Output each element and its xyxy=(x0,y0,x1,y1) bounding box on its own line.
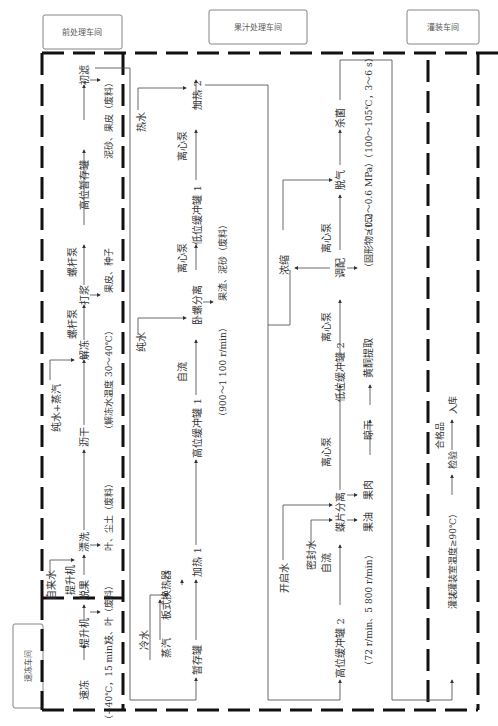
workshop-label: 速冻车间 xyxy=(23,650,33,682)
juice-second-line: 开启水 密封水 高位缓冲罐 2 自流 蝶片分离 离心泵 低位缓冲罐 2 离心泵 … xyxy=(278,53,374,677)
step-destem: 脱果 xyxy=(78,580,90,600)
step-concentrate: 浓缩 xyxy=(278,255,290,275)
step-gravity-flow: 自流 xyxy=(176,362,188,382)
step-quick-freeze: 速冻 xyxy=(78,680,90,700)
step-inspection: 检验 xyxy=(447,451,458,469)
input-tap-water: 自来水 xyxy=(45,570,57,600)
workshop-box-pre-process: 前处理车间 xyxy=(43,15,122,49)
input-hot-water: 热水 xyxy=(135,112,147,132)
step-centrifugal-pump: 离心泵 xyxy=(176,243,188,273)
decanter-waste: 果渣、泥砂（废料） xyxy=(217,220,228,301)
step-heating-1: 加热 1 xyxy=(191,547,203,577)
workshop-label: 灌装车间 xyxy=(427,22,459,32)
step-prefilter: 初滤 xyxy=(78,65,90,85)
step-flavonoid-extraction: 黄酮提取 xyxy=(362,338,374,378)
input-steam: 蒸汽 xyxy=(160,638,172,658)
freeze-note: （−40℃，15 min） xyxy=(104,636,114,724)
filter-waste: 泥砂、果皮（废料） xyxy=(103,78,114,159)
step-gravity-flow: 自流 xyxy=(320,553,332,573)
step-decanter: 卧螺分离 xyxy=(191,285,203,325)
pre-process-section: 自来水 纯水+蒸汽 提升机 漂洗 沥干 解冻 螺杆泵 打浆 螺杆泵 高位暂存罐 … xyxy=(45,65,114,600)
filling-note: （灌装室温度≥90℃） xyxy=(447,509,458,601)
filling-section: 灌装 （灌装室温度≥90℃） 检验 合格品 入库 xyxy=(434,396,458,609)
step-blending: 调配 xyxy=(335,258,346,278)
decanter-note: （900～1 100 r/min） xyxy=(218,323,228,420)
step-drain: 沥干 xyxy=(79,427,90,447)
step-centrifugal-pump: 离心泵 xyxy=(320,437,332,467)
workshop-box-quick-freeze: 速冻车间 xyxy=(13,624,43,708)
step-high-storage-tank: 高位暂存罐 xyxy=(78,160,90,210)
workshop-box-juice: 果汁处理车间 xyxy=(209,10,307,44)
workshop-box-filling: 灌装车间 xyxy=(407,10,479,44)
input-pure-water-steam: 纯水+蒸汽 xyxy=(50,384,62,432)
step-low-buffer-tank-2: 低位缓冲罐 2 xyxy=(334,342,346,402)
step-rinse: 漂洗 xyxy=(79,532,90,552)
input-pure-water: 纯水 xyxy=(135,332,147,352)
step-plate-heat-exchanger: 板式换热器 xyxy=(160,570,172,620)
step-air-dry: 晾干 xyxy=(362,420,374,440)
input-seal-water: 密封水 xyxy=(305,540,317,570)
step-warehousing: 入库 xyxy=(447,396,458,414)
step-centrifugal-pump: 离心泵 xyxy=(320,312,332,342)
freeze-section: 速冻 提升机 脱果 （−40℃，15 min） 枝、叶（废料） xyxy=(78,580,114,724)
workshop-label: 前处理车间 xyxy=(62,27,102,37)
pass-label: 合格品 xyxy=(434,422,445,449)
flow-canvas: 前处理车间 果汁处理车间 灌装车间 速冻车间 xyxy=(0,0,498,726)
step-disc-separator: 蝶片分离 xyxy=(334,492,346,532)
step-holding-tank: 暂存罐 xyxy=(191,645,203,675)
step-high-buffer-tank-1: 高位缓冲罐 1 xyxy=(191,398,203,458)
step-lifter: 提升机 xyxy=(64,565,76,595)
thaw-note: （解冻水温度 30～40℃） xyxy=(103,326,114,434)
freeze-waste: 枝、叶（废料） xyxy=(103,581,114,644)
step-high-buffer-tank-2: 高位缓冲罐 2 xyxy=(334,618,346,678)
step-centrifugal-pump: 离心泵 xyxy=(176,131,188,161)
input-boil-water: 开启水 xyxy=(278,563,290,593)
step-heating-2: 加热 2 xyxy=(191,80,203,110)
output-fruit-oil: 果油 xyxy=(362,512,374,532)
step-lifter: 提升机 xyxy=(78,618,90,648)
input-cold-water: 冷水 xyxy=(138,630,150,650)
pulping-waste: 果皮、种子 xyxy=(103,248,114,293)
workshop-label: 果汁处理车间 xyxy=(234,22,282,32)
output-fruit-pulp: 果肉 xyxy=(362,480,374,500)
rinse-waste: 叶、尘土（废料） xyxy=(103,479,114,551)
step-low-buffer-tank-1: 低位缓冲罐 1 xyxy=(191,185,203,245)
step-thaw: 解冻 xyxy=(78,340,90,360)
disc-separator-note: （72 r/min、5 800 r/min） xyxy=(364,550,374,669)
step-deaeration: 脱气 xyxy=(334,170,346,190)
step-screw-pump-2: 螺杆泵 xyxy=(67,247,78,277)
step-centrifugal-pump: 离心泵 xyxy=(320,223,332,253)
step-pulping: 打浆 xyxy=(78,285,90,305)
step-screw-pump-1: 螺杆泵 xyxy=(67,309,78,339)
step-sterilization: 杀菌 xyxy=(334,108,346,128)
juice-section: 冷水 蒸汽 纯水 热水 暂存罐 板式换热器 加热 1 高位缓冲罐 1 自流 卧螺… xyxy=(135,80,228,675)
sterilize-note: （0.2～0.6 MPa）（100～105℃，3～6 s） xyxy=(364,53,374,236)
process-flow-diagram: 前处理车间 果汁处理车间 灌装车间 速冻车间 xyxy=(0,0,498,726)
